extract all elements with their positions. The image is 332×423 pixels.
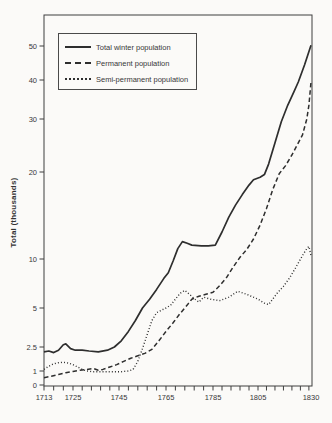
solid-line-swatch-icon <box>65 46 91 48</box>
x-tick-label: 1725 <box>65 393 82 402</box>
dotted-line-swatch-icon <box>65 78 91 80</box>
y-tick-label: 1 <box>33 367 37 376</box>
legend-item-semi-permanent: Semi-permanent population <box>65 71 196 87</box>
legend-label: Permanent population <box>96 59 169 68</box>
series-line-dashed <box>44 82 311 378</box>
x-tick-label: 1745 <box>111 393 128 402</box>
series-line-dotted <box>44 246 311 371</box>
y-axis-title: Total (thousands) <box>9 158 18 268</box>
y-tick-label: 10 <box>29 255 37 264</box>
x-tick-label: 1805 <box>250 393 267 402</box>
chart-legend: Total winter population Permanent popula… <box>58 33 197 90</box>
legend-item-total-winter: Total winter population <box>65 39 196 55</box>
legend-item-permanent: Permanent population <box>65 55 196 71</box>
x-tick-label: 1830 <box>303 393 320 402</box>
y-tick-label: 2.5 <box>27 343 37 352</box>
legend-label: Semi-permanent population <box>96 75 188 84</box>
y-tick-label: 40 <box>29 76 37 85</box>
x-tick-label: 1765 <box>158 393 175 402</box>
y-tick-label: 5 <box>33 304 37 313</box>
legend-label: Total winter population <box>96 43 171 52</box>
series-line-solid <box>44 45 311 352</box>
x-tick-label: 1713 <box>36 393 53 402</box>
y-tick-label: 30 <box>29 115 37 124</box>
y-tick-label: 50 <box>29 42 37 51</box>
y-tick-label: 0 <box>33 381 37 390</box>
x-tick-label: 1785 <box>205 393 222 402</box>
scanned-population-chart-page: 012.551020304050171317251745176517851805… <box>0 0 332 423</box>
y-tick-label: 20 <box>29 168 37 177</box>
dashed-line-swatch-icon <box>65 62 91 64</box>
